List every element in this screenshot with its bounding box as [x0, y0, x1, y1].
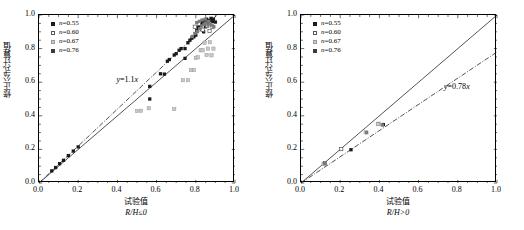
x-axis-title-text-right: 试验值	[386, 197, 410, 206]
y-tick-label: 0.2	[275, 144, 297, 152]
legend-item[interactable]: n=0.76	[313, 46, 341, 55]
x-axis-title-right: 试验值 R/H>0	[338, 197, 458, 219]
x-tick-label: 0.6	[144, 186, 168, 194]
y-tick-label: 0.0	[13, 178, 35, 186]
y-tick-label: 0.2	[13, 144, 35, 152]
legend-marker-icon	[51, 40, 55, 44]
legend-marker-icon	[51, 31, 55, 35]
y-tick-label: 1.0	[13, 10, 35, 18]
panel-left: 修正公式计算值 试验值 R/H≤0 n=0.55n=0.60n=0.67n=0.…	[0, 0, 262, 230]
legend-left: n=0.55n=0.60n=0.67n=0.76	[51, 19, 79, 55]
legend-marker-icon	[51, 22, 55, 26]
x-tick-label: 0.8	[183, 186, 207, 194]
legend-marker-icon	[313, 31, 317, 35]
y-tick-label: 0.8	[13, 44, 35, 52]
x-axis-title-left: 试验值 R/H≤0	[76, 197, 196, 219]
y-tick-label: 0.6	[13, 77, 35, 85]
equation-label-right: y=0.78x	[444, 82, 470, 91]
legend-label: n=0.76	[321, 45, 341, 55]
x-axis-condition-right: R/H>0	[387, 208, 409, 217]
y-tick-label: 0.4	[275, 111, 297, 119]
x-tick-label: 0.0	[288, 186, 312, 194]
legend-label: n=0.76	[59, 45, 79, 55]
x-axis-title-text-left: 试验值	[124, 197, 148, 206]
legend-right: n=0.55n=0.60n=0.67n=0.76	[313, 19, 341, 55]
legend-marker-icon	[313, 49, 317, 53]
y-tick-label: 0.4	[13, 111, 35, 119]
x-tick-label: 0.2	[327, 186, 351, 194]
figure-two-panel-scatter: 修正公式计算值 试验值 R/H≤0 n=0.55n=0.60n=0.67n=0.…	[0, 0, 524, 230]
y-tick-label: 0.8	[275, 44, 297, 52]
x-tick-label: 0.8	[445, 186, 469, 194]
x-tick-label: 0.4	[366, 186, 390, 194]
x-tick-label: 1.0	[222, 186, 246, 194]
equation-label-left: y=1.1x	[116, 75, 138, 84]
x-tick-label: 0.2	[65, 186, 89, 194]
y-tick-label: 0.6	[275, 77, 297, 85]
legend-marker-icon	[313, 22, 317, 26]
y-axis-title-right: 修正公式计算值	[264, 42, 275, 98]
panel-right: 修正公式计算值 试验值 R/H>0 n=0.55n=0.60n=0.67n=0.…	[262, 0, 524, 230]
x-tick-label: 0.0	[26, 186, 50, 194]
legend-marker-icon	[313, 40, 317, 44]
x-tick-label: 0.6	[406, 186, 430, 194]
x-axis-condition-left: R/H≤0	[125, 208, 146, 217]
legend-item[interactable]: n=0.76	[51, 46, 79, 55]
y-tick-label: 1.0	[275, 10, 297, 18]
x-tick-label: 1.0	[484, 186, 508, 194]
y-tick-label: 0.0	[275, 178, 297, 186]
x-tick-label: 0.4	[104, 186, 128, 194]
y-axis-title-left: 修正公式计算值	[2, 42, 13, 98]
legend-marker-icon	[51, 49, 55, 53]
